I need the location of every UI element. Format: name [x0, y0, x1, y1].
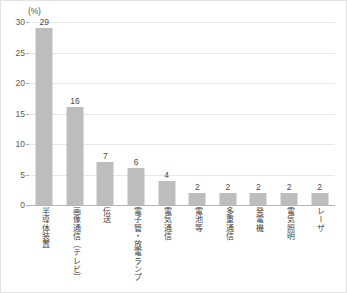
y-tick-label: 10 — [16, 139, 25, 149]
x-category-label: 伝送 — [101, 207, 109, 224]
x-category-slot: 半導体装置 — [29, 207, 60, 293]
y-tick-label: 15 — [16, 109, 25, 119]
x-category-slot: 電気照明 — [274, 207, 305, 293]
x-category-label: 半導体装置 — [40, 207, 48, 249]
x-category-slot: 多重通信 — [213, 207, 244, 293]
x-category-slot: 伝送 — [90, 207, 121, 293]
bar-value-label: 29 — [40, 17, 49, 27]
x-category-slot: 画像通信（テレビ） — [60, 207, 91, 293]
x-category-label: 電子管・放電ランプ — [132, 207, 140, 282]
bar[interactable] — [219, 193, 236, 205]
bar-slot[interactable]: 29 — [29, 22, 60, 205]
x-category-label: 電池等 — [193, 207, 201, 232]
bar[interactable] — [311, 193, 328, 205]
x-category-slot: 電子管・放電ランプ — [121, 207, 152, 293]
bar-value-label: 2 — [226, 182, 231, 192]
x-category-label: 多重通信 — [224, 207, 232, 240]
bar[interactable] — [281, 193, 298, 205]
x-category-label: 画像通信（テレビ） — [71, 207, 79, 282]
x-category-label: 発電機 — [254, 207, 262, 232]
bar[interactable] — [189, 193, 206, 205]
bar[interactable] — [250, 193, 267, 205]
x-category-slot: 電気通信 — [151, 207, 182, 293]
bar[interactable] — [97, 162, 114, 205]
x-axis-category-labels: 半導体装置画像通信（テレビ）伝送電子管・放電ランプ電気通信電池等多重通信発電機電… — [29, 207, 335, 293]
plot-area: 051015202530 291676422222 — [29, 22, 335, 205]
bar[interactable] — [66, 107, 83, 205]
bar-slot[interactable]: 2 — [274, 22, 305, 205]
y-tick-label: 5 — [20, 170, 25, 180]
bar[interactable] — [36, 28, 53, 205]
y-tick-label: 0 — [20, 200, 25, 210]
y-axis-unit-label: (%) — [28, 6, 41, 16]
bar-slot[interactable]: 6 — [121, 22, 152, 205]
bar-value-label: 2 — [195, 182, 200, 192]
bar-slot[interactable]: 2 — [213, 22, 244, 205]
y-tick-mark — [26, 205, 29, 206]
bar-slot[interactable]: 7 — [90, 22, 121, 205]
bar-slot[interactable]: 4 — [151, 22, 182, 205]
bar-value-label: 4 — [164, 170, 169, 180]
x-category-label: レーザ — [315, 207, 323, 232]
bar-value-label: 6 — [134, 157, 139, 167]
bar-slot[interactable]: 16 — [60, 22, 91, 205]
y-tick-label: 25 — [16, 48, 25, 58]
y-tick-label: 30 — [16, 17, 25, 27]
x-category-label: 電気通信 — [162, 207, 170, 240]
y-tick-label: 20 — [16, 78, 25, 88]
axis-baseline — [29, 205, 335, 206]
bar-chart-figure: (%) 051015202530 291676422222 半導体装置画像通信（… — [0, 0, 347, 293]
bar-value-label: 7 — [103, 151, 108, 161]
x-category-slot: 発電機 — [243, 207, 274, 293]
bars-layer: 291676422222 — [29, 22, 335, 205]
x-category-slot: 電池等 — [182, 207, 213, 293]
bar-slot[interactable]: 2 — [243, 22, 274, 205]
bar-value-label: 2 — [256, 182, 261, 192]
bar[interactable] — [128, 168, 145, 205]
x-category-label: 電気照明 — [285, 207, 293, 240]
bar-value-label: 16 — [70, 96, 79, 106]
bar-slot[interactable]: 2 — [304, 22, 335, 205]
bar[interactable] — [158, 181, 175, 205]
bar-value-label: 2 — [287, 182, 292, 192]
bar-slot[interactable]: 2 — [182, 22, 213, 205]
bar-value-label: 2 — [317, 182, 322, 192]
x-category-slot: レーザ — [304, 207, 335, 293]
